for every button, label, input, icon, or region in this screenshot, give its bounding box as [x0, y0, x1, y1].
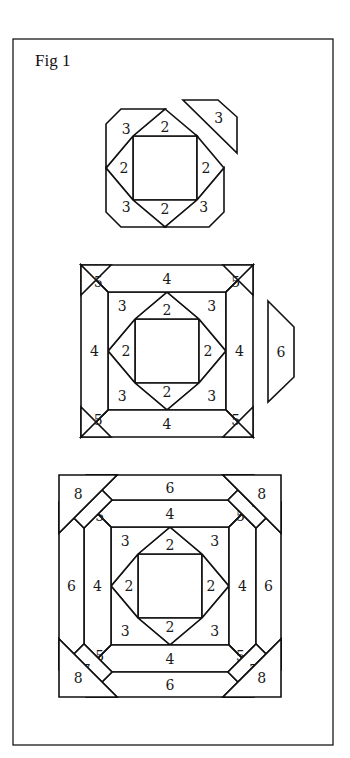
piece-r2-right-label: 2 [204, 343, 213, 359]
piece-r5-bottomright-label: 5 [231, 412, 240, 428]
piece-r3-topleft-label: 3 [122, 121, 131, 137]
piece-r3-topright-label: 3 [207, 298, 216, 314]
piece-r4-right-label: 4 [235, 343, 244, 359]
piece-r2-left-label: 2 [122, 343, 131, 359]
piece-r2-right-label: 2 [207, 578, 216, 594]
piece-r3-bottomleft-label: 3 [121, 623, 130, 639]
piece-r3-topleft-label: 3 [118, 298, 127, 314]
piece-r3-bottomright-label: 3 [199, 199, 208, 215]
piece-r5-bottomleft-label: 5 [94, 412, 103, 428]
piece-center [138, 554, 202, 618]
piece-r4-bottom-label: 4 [166, 651, 175, 667]
piece-r2-right-label: 2 [202, 160, 211, 176]
piece-r4-left-label: 4 [90, 343, 99, 359]
piece-r2-bottom-label: 2 [163, 384, 172, 400]
piece-r4-left-label: 4 [93, 578, 102, 594]
piece-r5-topleft-label: 5 [94, 274, 103, 290]
piece-center [133, 136, 197, 200]
piece-r3-bottomleft-label: 3 [122, 199, 131, 215]
figure-canvas: Fig 1 22223333 22223333444455556 2222333… [0, 0, 350, 758]
piece-r6-bottom-label: 6 [166, 677, 175, 693]
piece-r8-bottomleft-label: 8 [74, 670, 83, 686]
piece-r3-topleft-label: 3 [121, 533, 130, 549]
piece-r2-bottom-label: 2 [166, 619, 175, 635]
piece-r2-top-label: 2 [166, 537, 175, 553]
piece-center [135, 319, 199, 383]
piece-r4-top-label: 4 [163, 271, 172, 287]
piece-r2-left-label: 2 [125, 578, 134, 594]
step-round-6-block: 22223333444455556 [81, 265, 294, 437]
piece-r8-topleft-label: 8 [74, 486, 83, 502]
piece-r2-left-label: 2 [120, 160, 129, 176]
piece-r6-right-detached-label: 6 [277, 344, 286, 360]
piece-r3-bottomleft-label: 3 [118, 388, 127, 404]
piece-r5-topright-label: 5 [231, 274, 240, 290]
piece-r3-bottomright-label: 3 [210, 623, 219, 639]
piece-r4-top-label: 4 [166, 506, 175, 522]
step-complete-block: 2222333344445555666677778888 [59, 475, 281, 697]
piece-r4-right-label: 4 [238, 578, 247, 594]
piece-r2-top-label: 2 [161, 119, 170, 135]
piece-r3-topright-detached-label: 3 [214, 110, 223, 126]
piece-r8-bottomright-label: 8 [257, 670, 266, 686]
piece-r3-topright-label: 3 [210, 533, 219, 549]
piece-r3-bottomright-label: 3 [207, 388, 216, 404]
step-round-3-block: 22223333 [106, 100, 237, 227]
piece-r6-right-label: 6 [264, 578, 273, 594]
piece-r8-topright-label: 8 [257, 486, 266, 502]
piece-r4-bottom-label: 4 [163, 416, 172, 432]
piece-r6-top-label: 6 [166, 480, 175, 496]
piece-r2-bottom-label: 2 [161, 201, 170, 217]
piece-r2-top-label: 2 [163, 302, 172, 318]
piece-r6-left-label: 6 [67, 578, 76, 594]
figure-title: Fig 1 [35, 51, 70, 70]
